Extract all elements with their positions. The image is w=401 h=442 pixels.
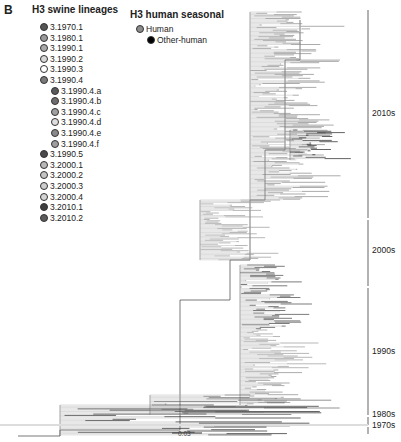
legend-label: 3.2010.2 <box>50 213 83 223</box>
swine-legend-item: 3.2000.3 <box>40 181 83 191</box>
legend-label: 3.1990.5 <box>50 149 83 159</box>
swine-legend-item: 3.1970.1 <box>40 22 83 32</box>
swine-legend-item: 3.1990.4.f <box>51 139 99 149</box>
legend-swatch-icon <box>40 76 48 84</box>
legend-swatch-icon <box>40 161 48 169</box>
human-legend-item: Other-human <box>147 35 207 45</box>
legend-label: 3.1990.4.d <box>61 117 101 127</box>
swine-legend-item: 3.1990.4.e <box>51 128 101 138</box>
legend-swatch-icon <box>40 44 48 52</box>
legend-swatch-icon <box>40 55 48 63</box>
legend-label: 3.1990.4.a <box>61 86 101 96</box>
legend-swatch-icon <box>51 87 59 95</box>
legend-label: 3.1990.4.f <box>61 139 99 149</box>
legend-label: 3.2000.1 <box>50 160 83 170</box>
legend-swatch-icon <box>40 203 48 211</box>
era-label-2000s: 2000s <box>372 245 395 255</box>
legend-swatch-icon <box>51 140 59 148</box>
swine-legend-item: 3.1990.4.c <box>51 107 101 117</box>
legend-label: 3.2000.4 <box>50 192 83 202</box>
legend-swatch-icon <box>147 36 155 44</box>
legend-label: 3.1990.3 <box>50 64 83 74</box>
swine-legend-title: H3 swine lineages <box>32 4 118 15</box>
swine-legend-item: 3.2000.1 <box>40 160 83 170</box>
swine-legend-item: 3.1990.4.a <box>51 86 101 96</box>
legend-label: 3.2010.1 <box>50 202 83 212</box>
swine-legend-item: 3.2010.2 <box>40 213 83 223</box>
legend-swatch-icon <box>40 23 48 31</box>
era-label-1980s: 1980s <box>372 409 395 419</box>
swine-legend-item: 3.2000.4 <box>40 192 83 202</box>
legend-label: 3.1970.1 <box>50 22 83 32</box>
legend-label: 3.1990.4 <box>50 75 83 85</box>
swine-legend-item: 3.1990.1 <box>40 43 83 53</box>
legend-swatch-icon <box>40 214 48 222</box>
legend-swatch-icon <box>51 97 59 105</box>
legend-swatch-icon <box>40 193 48 201</box>
legend-swatch-icon <box>40 171 48 179</box>
legend-swatch-icon <box>40 65 48 73</box>
era-label-1970s: 1970s <box>372 420 395 430</box>
legend-swatch-icon <box>136 25 144 33</box>
swine-legend-item: 3.1990.4.d <box>51 117 101 127</box>
era-label-1990s: 1990s <box>372 346 395 356</box>
legend-label: Other-human <box>157 35 207 45</box>
swine-legend-item: 3.1990.4.b <box>51 96 101 106</box>
human-legend-title: H3 human seasonal <box>130 9 224 20</box>
legend-label: 3.1990.4.b <box>61 96 101 106</box>
swine-legend-item: 3.1990.2 <box>40 54 83 64</box>
legend-label: 3.2000.3 <box>50 181 83 191</box>
legend-swatch-icon <box>51 108 59 116</box>
legend-label: 3.1990.4.e <box>61 128 101 138</box>
swine-legend-item: 3.1990.3 <box>40 64 83 74</box>
legend-label: 3.2000.2 <box>50 170 83 180</box>
human-legend-item: Human <box>136 24 173 34</box>
legend-swatch-icon <box>51 118 59 126</box>
swine-legend-item: 3.1990.4 <box>40 75 83 85</box>
swine-legend-item: 3.2010.1 <box>40 202 83 212</box>
legend-swatch-icon <box>40 182 48 190</box>
era-label-2010s: 2010s <box>372 108 395 118</box>
legend-swatch-icon <box>51 129 59 137</box>
legend-swatch-icon <box>40 150 48 158</box>
legend-label: 3.1990.1 <box>50 43 83 53</box>
swine-legend-item: 3.1990.5 <box>40 149 83 159</box>
swine-legend-item: 3.2000.2 <box>40 170 83 180</box>
legend-swatch-icon <box>40 34 48 42</box>
legend-label: 3.1980.1 <box>50 33 83 43</box>
scale-bar-label: 0.03 <box>178 430 191 437</box>
legend-label: 3.1990.2 <box>50 54 83 64</box>
legend-label: Human <box>146 24 173 34</box>
swine-legend-item: 3.1980.1 <box>40 33 83 43</box>
legend-label: 3.1990.4.c <box>61 107 101 117</box>
